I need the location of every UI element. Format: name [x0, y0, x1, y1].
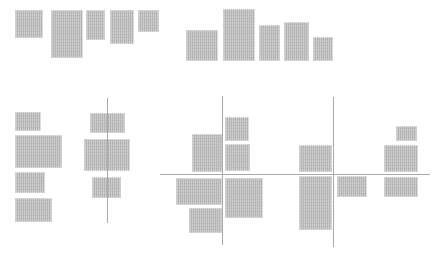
cross-quadrant-middle	[0, 0, 441, 257]
bar	[15, 10, 43, 38]
vertical-axis-left	[107, 98, 108, 223]
bar	[189, 208, 222, 233]
bar	[110, 10, 134, 44]
figure-canvas	[0, 0, 441, 257]
bar	[225, 178, 263, 218]
top-aligned-row	[0, 0, 441, 257]
bar	[51, 10, 83, 58]
bar	[192, 134, 223, 172]
bar	[225, 144, 250, 171]
bar	[299, 145, 332, 172]
bar	[337, 176, 367, 197]
bar	[396, 126, 417, 141]
bar	[15, 135, 62, 168]
bottom-aligned-row	[0, 0, 441, 257]
cross-quadrant-right	[0, 0, 441, 257]
bar	[176, 178, 222, 205]
left-aligned-stack	[0, 0, 441, 257]
bar	[86, 10, 105, 40]
vertical-axis-right	[333, 97, 334, 247]
bar	[15, 198, 52, 222]
bar	[284, 22, 309, 61]
bar	[299, 176, 332, 230]
bar	[186, 30, 218, 61]
horizontal-axis	[160, 174, 430, 175]
bar	[384, 177, 418, 197]
right-edge-stack	[0, 0, 441, 257]
vertical-axis-middle	[222, 96, 223, 245]
bar	[225, 117, 249, 141]
bar	[313, 37, 333, 61]
bar	[15, 112, 41, 131]
bar	[259, 25, 280, 61]
bar	[223, 9, 255, 61]
bar	[138, 10, 159, 32]
center-aligned-stack	[0, 0, 441, 257]
bar	[384, 145, 418, 172]
bar	[15, 172, 45, 193]
